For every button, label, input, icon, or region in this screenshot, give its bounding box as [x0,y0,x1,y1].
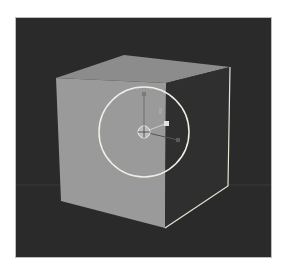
cube-right-face[interactable] [165,67,230,228]
gizmo-x-handle-icon[interactable] [176,138,180,142]
scene-canvas[interactable] [0,0,289,271]
gizmo-plane-handle-icon[interactable] [159,108,162,114]
gizmo-y-handle-icon[interactable] [164,121,169,126]
gizmo-z-handle-icon[interactable] [142,92,146,96]
